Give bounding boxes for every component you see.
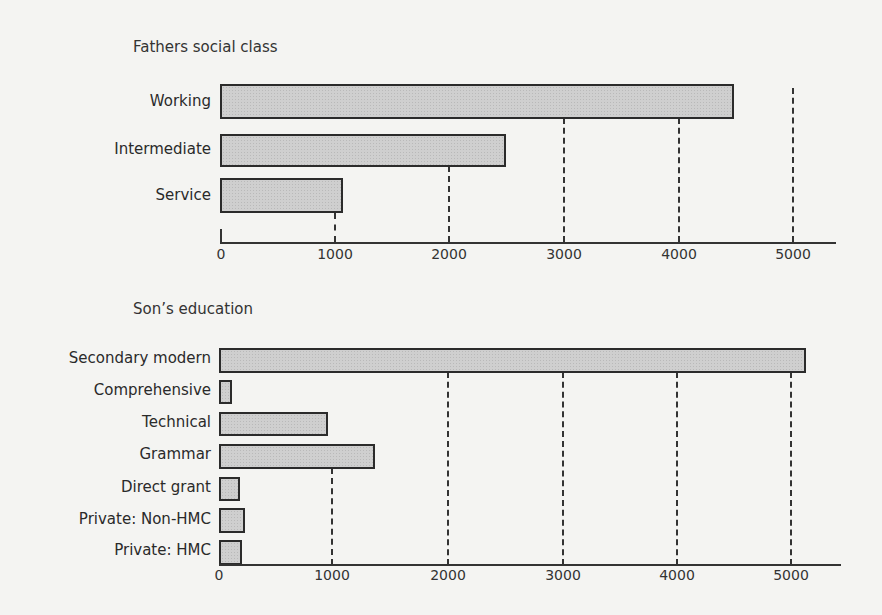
bar-grammar bbox=[219, 444, 375, 469]
category-label-technical: Technical bbox=[142, 413, 211, 431]
tick-label-1000: 1000 bbox=[314, 567, 350, 583]
category-label-grammar: Grammar bbox=[139, 445, 211, 463]
bar-private-hmc bbox=[219, 540, 242, 565]
category-label-service: Service bbox=[156, 186, 211, 204]
gridline-4000 bbox=[678, 118, 680, 242]
category-label-private-hmc: Private: HMC bbox=[114, 541, 211, 559]
x-axis-line bbox=[219, 564, 841, 566]
chart-title-sons-education: Son’s education bbox=[133, 300, 253, 318]
gridline-5000 bbox=[792, 88, 794, 242]
category-label-working: Working bbox=[150, 92, 211, 110]
tick-label-0: 0 bbox=[217, 246, 226, 262]
category-label-direct-grant: Direct grant bbox=[121, 478, 211, 496]
x-axis-start-tick bbox=[220, 229, 222, 243]
tick-label-5000: 5000 bbox=[775, 246, 811, 262]
gridline-2000 bbox=[447, 372, 449, 565]
bar-secondary-modern bbox=[219, 348, 806, 373]
chart-title-fathers-social-class: Fathers social class bbox=[133, 38, 278, 56]
gridline-3000 bbox=[563, 118, 565, 242]
tick-label-3000: 3000 bbox=[546, 246, 582, 262]
tick-label-3000: 3000 bbox=[545, 567, 581, 583]
category-label-comprehensive: Comprehensive bbox=[94, 381, 211, 399]
tick-label-1000: 1000 bbox=[317, 246, 353, 262]
gridline-1000 bbox=[331, 468, 333, 565]
tick-label-5000: 5000 bbox=[773, 567, 809, 583]
category-label-secondary-modern: Secondary modern bbox=[69, 349, 211, 367]
bar-comprehensive bbox=[219, 380, 232, 404]
tick-label-0: 0 bbox=[215, 567, 224, 583]
gridline-1000 bbox=[334, 213, 336, 242]
tick-label-4000: 4000 bbox=[659, 567, 695, 583]
bar-working bbox=[220, 84, 734, 119]
gridline-4000 bbox=[676, 372, 678, 565]
bar-technical bbox=[219, 412, 328, 436]
tick-label-2000: 2000 bbox=[430, 567, 466, 583]
x-axis-line bbox=[220, 242, 836, 244]
bar-direct-grant bbox=[219, 477, 240, 501]
bar-service bbox=[220, 178, 343, 213]
tick-label-2000: 2000 bbox=[431, 246, 467, 262]
gridline-2000 bbox=[448, 166, 450, 242]
tick-label-4000: 4000 bbox=[661, 246, 697, 262]
bar-private-non-hmc bbox=[219, 508, 245, 533]
gridline-5000 bbox=[790, 372, 792, 565]
gridline-3000 bbox=[562, 372, 564, 565]
category-label-intermediate: Intermediate bbox=[114, 140, 211, 158]
category-label-private-non-hmc: Private: Non-HMC bbox=[79, 510, 211, 528]
bar-intermediate bbox=[220, 134, 506, 167]
